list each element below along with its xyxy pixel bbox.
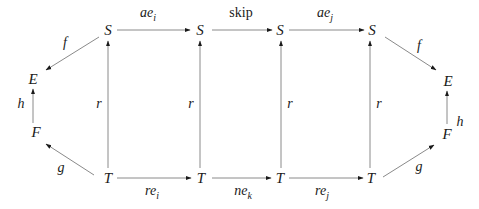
label-bottom-1: rei <box>145 183 159 201</box>
label-right-g: g <box>416 159 423 174</box>
node-s1: S <box>104 22 112 38</box>
node-e-left: E <box>27 71 37 87</box>
label-vertical-4: r <box>376 96 382 111</box>
node-t3: T <box>276 170 286 186</box>
label-right-h: h <box>457 114 464 129</box>
node-e-right: E <box>442 73 452 89</box>
arrow-left-g <box>46 144 94 175</box>
node-s4: S <box>368 22 376 38</box>
label-top-3: aej <box>317 5 333 23</box>
label-top-2: skip <box>229 5 252 20</box>
arrow-right-f <box>385 37 436 70</box>
arrow-right-g <box>383 145 434 177</box>
node-s2: S <box>196 22 204 38</box>
label-bottom-3: rej <box>315 183 329 201</box>
node-f-right: F <box>441 126 452 142</box>
label-vertical-2: r <box>188 96 194 111</box>
node-t2: T <box>197 170 207 186</box>
label-left-h: h <box>18 96 25 111</box>
label-vertical-1: r <box>96 96 102 111</box>
label-left-g: g <box>58 160 65 175</box>
node-t4: T <box>367 170 377 186</box>
label-top-1: aei <box>140 5 156 23</box>
label-vertical-3: r <box>287 96 293 111</box>
label-left-f: f <box>63 35 69 50</box>
commutative-diagram: S S S S T T T T E F E F aei skip aej rei… <box>0 0 479 209</box>
node-t1: T <box>104 170 114 186</box>
node-f-left: F <box>30 124 41 140</box>
node-s3: S <box>276 22 284 38</box>
label-bottom-2: nek <box>234 183 252 201</box>
label-right-f: f <box>417 38 423 53</box>
arrow-left-f <box>46 37 99 70</box>
